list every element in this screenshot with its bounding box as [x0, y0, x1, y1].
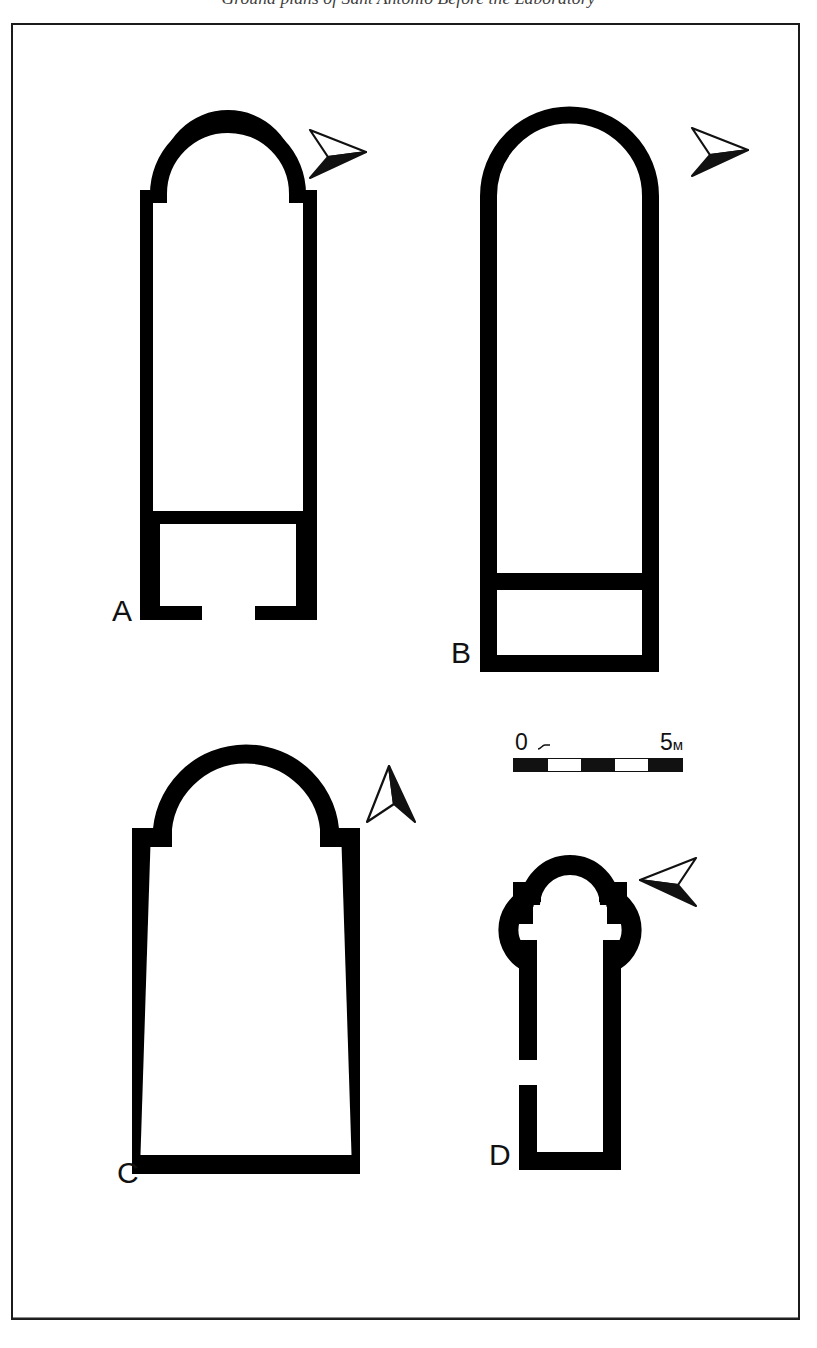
plan-a-wall-east — [303, 190, 317, 620]
plan-d-joint-east — [607, 882, 627, 924]
scale-segment — [514, 759, 548, 771]
plan-b-wall-south — [480, 655, 659, 672]
plan-b-drawing — [480, 115, 659, 672]
north-arrow-right-icon — [692, 128, 748, 176]
plan-c-drawing — [132, 754, 360, 1174]
scale-ruler — [513, 758, 683, 772]
scale-segment — [548, 759, 582, 771]
scale-segment — [648, 759, 682, 771]
plan-b-apse-wall — [489, 115, 651, 290]
plan-b-wall-west — [480, 270, 497, 672]
plan-c-apse-wall — [162, 754, 330, 838]
plan-a-interior-void — [153, 123, 303, 511]
plan-d-wall-east — [603, 940, 621, 1170]
north-arrow-left-icon — [640, 858, 696, 906]
plan-a-wall-south-right — [255, 606, 317, 620]
plan-a-cross-wall — [140, 511, 317, 524]
plan-a-wall-south-left — [140, 606, 202, 620]
plan-d-wall-south — [519, 1152, 621, 1170]
scale-segment — [581, 759, 615, 771]
plan-label-b: B — [451, 638, 471, 668]
plan-label-a: A — [112, 596, 132, 626]
scale-end-value: 5 — [660, 729, 673, 755]
scale-segment — [615, 759, 649, 771]
plan-b-wall-east — [642, 270, 659, 672]
north-arrow-right-icon — [310, 130, 366, 178]
plan-c-wall-east — [341, 828, 360, 1170]
plan-label-c: C — [117, 1158, 139, 1188]
scale-bar: 0 5м — [513, 731, 683, 776]
figure-drawing-canvas — [0, 0, 817, 1348]
scale-tick-icon — [538, 744, 551, 751]
plan-a-drawing — [140, 110, 317, 620]
north-arrow-up-icon — [367, 766, 415, 822]
plan-a-wall-west — [140, 190, 153, 620]
scale-end-label: 5м — [660, 731, 683, 754]
plan-b-cross-wall — [480, 573, 659, 590]
scale-start-label: 0 — [515, 731, 528, 754]
plan-d-drawing — [508, 865, 631, 1170]
plan-c-wall-west — [132, 828, 151, 1170]
plan-d-joint-west — [513, 882, 533, 924]
plan-d-wall-west-upper — [519, 940, 537, 1060]
scale-unit: м — [673, 736, 683, 753]
plan-label-d: D — [489, 1140, 511, 1170]
plan-d-apse-central — [530, 865, 610, 905]
plan-c-wall-south — [132, 1155, 360, 1174]
